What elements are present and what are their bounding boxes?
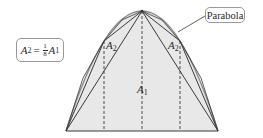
- formula-frac-den: 8: [43, 51, 47, 58]
- label-a1: A1: [137, 84, 148, 97]
- formula-rhs-sub: 1: [55, 46, 59, 55]
- formula-equals: =: [33, 44, 39, 56]
- formula-rhs-base: A: [49, 44, 56, 56]
- label-a2-left-sub: 2: [113, 44, 117, 53]
- label-a2-right: A2: [168, 40, 179, 53]
- parabola-leader-line: [178, 16, 205, 32]
- label-a2-right-base: A: [168, 39, 175, 51]
- parabola-callout: Parabola: [205, 7, 245, 23]
- label-a1-sub: 1: [144, 88, 148, 97]
- formula-lhs-base: A: [21, 44, 28, 56]
- formula-callout: A2 = 1 8 A1: [16, 38, 64, 62]
- label-a2-right-sub: 2: [175, 44, 179, 53]
- formula-fraction: 1 8: [43, 43, 48, 58]
- apex-point: [141, 10, 144, 13]
- formula-frac-num: 1: [43, 43, 47, 50]
- label-a2-left: A2: [106, 40, 117, 53]
- label-a1-base: A: [137, 83, 144, 95]
- formula-lhs-sub: 2: [27, 46, 31, 55]
- parabola-callout-text: Parabola: [207, 10, 244, 21]
- label-a2-left-base: A: [106, 39, 113, 51]
